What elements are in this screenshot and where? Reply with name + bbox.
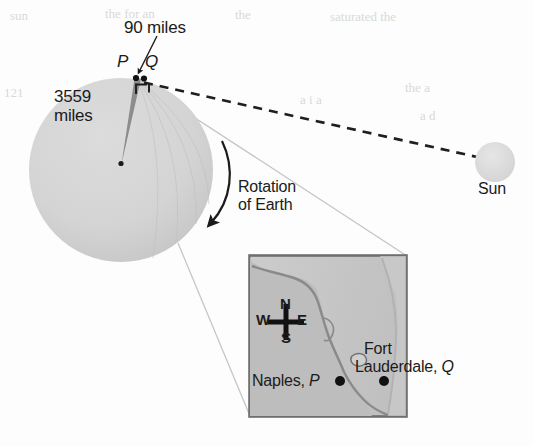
naples-label-text: Naples, — [252, 372, 309, 389]
earth-center-dot — [118, 161, 123, 166]
point-p-dot — [133, 75, 139, 81]
fort-lauderdale-dot — [379, 376, 389, 386]
point-q-label: Q — [145, 52, 158, 71]
sun-label: Sun — [478, 180, 506, 198]
earth-radius-label: 3559 miles — [54, 87, 93, 125]
compass-east-label: E — [297, 312, 307, 329]
compass-west-label: W — [256, 312, 270, 329]
fort-lauderdale-label-line1: Fort — [364, 340, 392, 358]
compass-south-label: S — [281, 330, 291, 347]
florida-inset-map — [250, 256, 408, 417]
lauderdale-label-text: Lauderdale, — [355, 358, 442, 375]
distance-label-90-miles: 90 miles — [124, 18, 186, 37]
rotation-arrow — [211, 141, 230, 223]
fort-lauderdale-label-line2: Lauderdale, Q — [355, 358, 454, 376]
figure-canvas: sun the for an the saturated the 121 a i… — [0, 0, 533, 446]
naples-label: Naples, P — [252, 372, 320, 390]
naples-dot — [335, 376, 345, 386]
rotation-of-earth-label: Rotation of Earth — [238, 178, 296, 214]
naples-point-letter: P — [309, 372, 319, 389]
compass-north-label: N — [280, 296, 291, 313]
point-q-dot — [141, 75, 147, 81]
point-p-label: P — [117, 52, 128, 71]
sun-circle — [475, 142, 515, 182]
fort-lauderdale-point-letter: Q — [442, 358, 454, 375]
